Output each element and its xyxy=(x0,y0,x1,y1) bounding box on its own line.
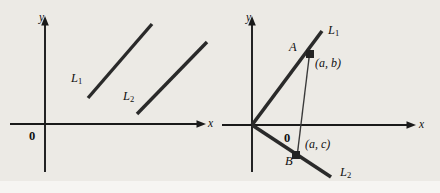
point-B-label: B xyxy=(285,155,293,168)
left-panel xyxy=(10,16,207,172)
left-line-L2-label: L2 xyxy=(123,90,134,104)
right-line-L2-ray xyxy=(252,125,331,177)
left-line-L2-label-text: L xyxy=(123,89,130,103)
right-line-L2-label-subscript: 2 xyxy=(347,170,351,180)
right-line-L2-label-text: L xyxy=(340,165,347,179)
bottom-margin-strip xyxy=(0,181,440,193)
left-x-axis-arrowhead xyxy=(197,120,207,128)
point-B-coordinate-label: (a, c) xyxy=(305,138,330,150)
left-x-axis-label: x xyxy=(208,118,213,130)
left-origin-label: 0 xyxy=(29,130,35,143)
point-B-marker xyxy=(292,151,300,159)
left-line-L1-label-subscript: 1 xyxy=(78,76,82,86)
figure-canvas xyxy=(0,0,440,193)
geometry-figure: y x 0 L1 L2 y x 0 L1 L2 A (a, b) B (a, c… xyxy=(0,0,440,193)
right-x-axis-arrowhead xyxy=(407,121,417,129)
right-origin-label: 0 xyxy=(284,132,290,145)
right-line-L2-label: L2 xyxy=(340,166,351,180)
left-y-axis-label: y xyxy=(39,12,44,24)
left-line-L2-label-subscript: 2 xyxy=(130,94,134,104)
point-A-label: A xyxy=(289,41,297,54)
left-line-L1-label-text: L xyxy=(71,71,78,85)
right-line-L1-ray xyxy=(252,31,322,125)
point-A-marker xyxy=(306,50,314,58)
right-line-L1-label-subscript: 1 xyxy=(335,28,339,38)
left-line-L2-segment xyxy=(137,42,207,114)
point-A-coordinate-label: (a, b) xyxy=(315,57,341,69)
right-panel xyxy=(222,16,416,177)
right-y-axis-label: y xyxy=(246,12,251,24)
right-x-axis-label: x xyxy=(419,119,424,131)
left-line-L1-label: L1 xyxy=(71,72,82,86)
left-line-L1-segment xyxy=(88,24,152,98)
right-line-L1-label-text: L xyxy=(328,23,335,37)
right-line-L1-label: L1 xyxy=(328,24,339,38)
